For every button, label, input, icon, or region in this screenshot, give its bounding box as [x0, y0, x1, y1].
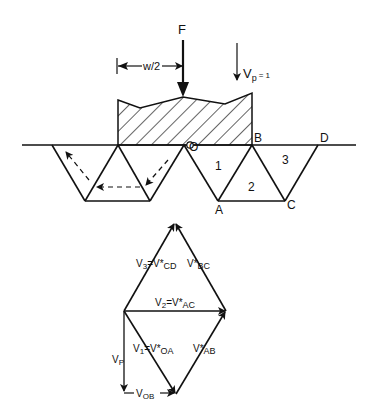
mechanism-diagram: O B D A C 1 2 3 F w/2 Vp= 1	[0, 0, 377, 416]
label-o: O	[189, 140, 198, 154]
vbc-label: V*BC	[187, 258, 211, 271]
dashed-flow-arrows	[66, 152, 168, 187]
vp-hodograph-label: VP	[112, 354, 124, 367]
footing-block	[118, 93, 252, 145]
v1-label: V1=V*OA	[133, 343, 174, 356]
force-f-label: F	[178, 22, 186, 37]
v2-label: V2=V*AC	[155, 297, 196, 310]
label-d: D	[320, 131, 329, 145]
block-1-label: 1	[215, 159, 222, 173]
label-b: B	[254, 131, 262, 145]
v3-label: V3=V*CD	[136, 258, 177, 271]
label-c: C	[287, 198, 296, 212]
vob-label: VOB	[136, 388, 154, 401]
force-f-arrow	[177, 40, 189, 97]
vp-label: Vp= 1	[243, 66, 271, 83]
block-3-label: 3	[282, 153, 289, 167]
half-width-label: w/2	[142, 60, 160, 72]
label-a: A	[215, 203, 223, 217]
vab-label: V*AB	[193, 343, 216, 356]
block-2-label: 2	[248, 180, 255, 194]
velocity-hodograph	[124, 224, 226, 394]
left-mechanism	[52, 145, 184, 201]
